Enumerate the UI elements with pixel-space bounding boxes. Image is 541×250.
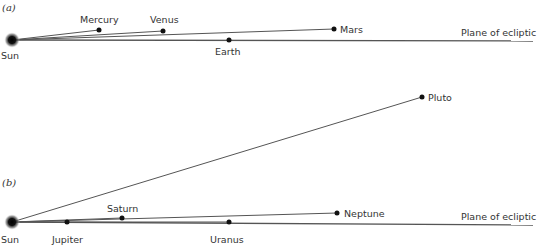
panel-a-label: (a) xyxy=(2,2,16,13)
planet-dot-earth xyxy=(227,38,232,43)
ecliptic-label-b: Plane of ecliptic xyxy=(461,211,536,222)
planet-dot-neptune xyxy=(335,211,340,216)
sun-icon-b xyxy=(4,214,20,230)
ecliptic-label-a: Plane of ecliptic xyxy=(461,27,536,38)
planet-dot-mercury xyxy=(97,28,102,33)
planet-dot-pluto xyxy=(420,95,425,100)
panel-b-label: (b) xyxy=(2,177,16,188)
planet-dot-uranus xyxy=(227,220,232,225)
planet-label-pluto: Pluto xyxy=(428,92,452,103)
planet-label-neptune: Neptune xyxy=(344,208,385,219)
planet-label-mercury: Mercury xyxy=(80,14,119,25)
planet-dot-jupiter xyxy=(65,220,70,225)
orbit-line-neptune xyxy=(12,213,337,222)
planet-dot-venus xyxy=(161,29,166,34)
planet-label-uranus: Uranus xyxy=(210,234,244,245)
sun-label-b: Sun xyxy=(1,234,19,245)
ecliptic-line-a xyxy=(12,40,533,41)
planet-label-mars: Mars xyxy=(340,24,363,35)
planet-dot-mars xyxy=(332,27,337,32)
planet-label-jupiter: Jupiter xyxy=(51,234,83,245)
sun-label-a: Sun xyxy=(1,50,19,61)
panel-b: (b) Sun Jupiter Saturn Uranus Neptune Pl… xyxy=(1,92,536,245)
planet-label-venus: Venus xyxy=(150,14,179,25)
sun-icon-a xyxy=(4,32,20,48)
planet-label-earth: Earth xyxy=(215,46,240,57)
orbital-inclination-diagram: (a) Sun Mercury Venus Earth Mars Plane o… xyxy=(0,0,541,250)
planet-label-saturn: Saturn xyxy=(107,203,138,214)
orbit-line-pluto xyxy=(12,97,422,222)
panel-a: (a) Sun Mercury Venus Earth Mars Plane o… xyxy=(1,2,536,61)
planet-dot-saturn xyxy=(120,216,125,221)
